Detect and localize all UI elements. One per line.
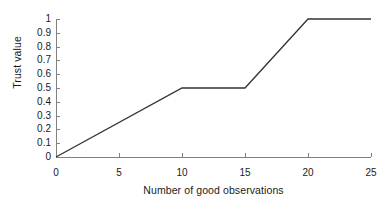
x-tick-label: 0: [53, 167, 59, 178]
trust-value-chart: Trust value 00.10.20.30.40.50.60.70.80.9…: [0, 0, 381, 205]
x-tick-label: 20: [302, 167, 313, 178]
y-axis-tick-marks: [56, 20, 60, 158]
x-axis-title: Number of good observations: [56, 184, 371, 196]
x-tick-label-wrap: 25: [351, 162, 381, 180]
x-axis-tick-marks: [57, 153, 372, 157]
x-tick-label-wrap: 5: [99, 162, 139, 180]
x-tick-label: 5: [116, 167, 122, 178]
trust-value-line: [56, 19, 371, 157]
x-tick-label: 25: [365, 167, 376, 178]
x-tick-label-wrap: 0: [36, 162, 76, 180]
x-tick-label-wrap: 15: [225, 162, 265, 180]
x-tick-label: 15: [239, 167, 250, 178]
x-tick-label-wrap: 10: [162, 162, 202, 180]
x-tick-label: 10: [176, 167, 187, 178]
x-tick-label-wrap: 20: [288, 162, 328, 180]
